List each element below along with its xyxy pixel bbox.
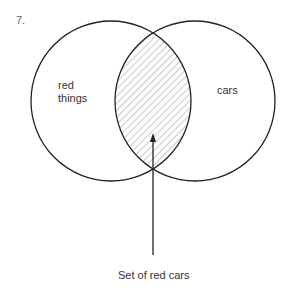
label-intersection: Set of red cars	[118, 269, 190, 282]
label-red-things: red things	[58, 79, 87, 105]
figure-number: 7.	[16, 14, 25, 27]
intersection-hatch	[115, 21, 275, 181]
venn-diagram	[0, 0, 293, 298]
label-line: red	[58, 79, 87, 92]
label-cars: cars	[217, 84, 238, 97]
label-line: things	[58, 92, 87, 105]
